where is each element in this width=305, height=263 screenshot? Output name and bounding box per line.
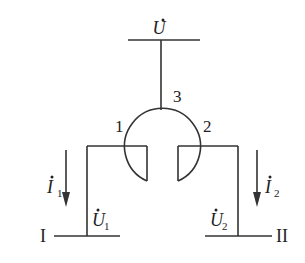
current-1-arrowhead [62, 192, 70, 207]
junction-arc [124, 108, 200, 181]
node-1-label: 1 [115, 117, 124, 136]
supply-voltage-label: U [153, 18, 167, 38]
circuit-diagram: U 3 1 2 I 1 U 1 I 2 U 2 I II [0, 0, 305, 263]
svg-text:I: I [264, 177, 272, 197]
supply-voltage-dot [162, 19, 165, 22]
node-2-label: 2 [203, 117, 212, 136]
svg-text:2: 2 [222, 220, 228, 232]
node-3-label: 3 [173, 87, 182, 106]
svg-text:2: 2 [274, 187, 280, 199]
svg-text:1: 1 [57, 187, 63, 199]
current-1-label: I 1 [46, 176, 63, 200]
svg-text:I: I [46, 177, 54, 197]
voltage-1-label: U 1 [92, 209, 110, 233]
svg-text:1: 1 [104, 220, 110, 232]
current-2-arrowhead [253, 192, 261, 207]
bus-II-label: II [276, 226, 288, 246]
bus-I-label: I [40, 226, 46, 246]
current-2-label: I 2 [264, 176, 280, 200]
voltage-2-label: U 2 [210, 209, 228, 233]
